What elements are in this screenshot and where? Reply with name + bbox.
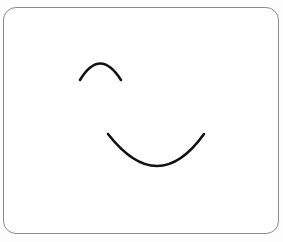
upper-arch-curve (80, 64, 121, 81)
lower-smile-curve (108, 134, 204, 166)
figure-canvas (0, 0, 283, 242)
curves-drawing (0, 0, 283, 242)
